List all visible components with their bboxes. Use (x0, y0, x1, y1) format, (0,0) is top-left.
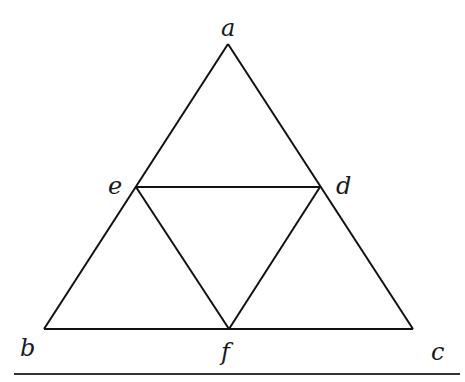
label-c: c (431, 338, 444, 366)
label-f: f (219, 338, 234, 366)
label-e: e (108, 172, 122, 200)
segment-ef (136, 187, 229, 329)
segment-df (229, 187, 320, 329)
triangle-diagram: a e d b f c (0, 0, 465, 382)
label-b: b (20, 334, 35, 362)
label-a: a (221, 14, 235, 42)
label-d: d (336, 172, 351, 200)
